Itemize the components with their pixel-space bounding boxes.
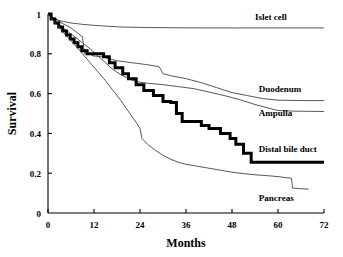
- x-tick-label: 72: [320, 220, 330, 230]
- y-tick-label: 0: [37, 209, 42, 219]
- y-tick-label: 1: [37, 10, 42, 20]
- series-label-ampulla: Ampulla: [259, 108, 293, 118]
- x-tick-label: 60: [274, 220, 284, 230]
- y-tick-label: 0.8: [30, 49, 42, 59]
- series-label-distal-bile-duct: Distal bile duct: [259, 144, 317, 154]
- x-axis-title: Months: [166, 236, 206, 250]
- survival-chart: 012243648607200.20.40.60.81 Islet cellDu…: [0, 0, 343, 257]
- series-curve-ampulla: [48, 14, 324, 112]
- y-axis-title: Survival: [5, 91, 19, 135]
- series-label-islet-cell: Islet cell: [255, 12, 287, 22]
- x-tick-label: 24: [136, 220, 146, 230]
- series-curves: [48, 14, 324, 189]
- series-labels: Islet cellDuodenumAmpullaDistal bile duc…: [255, 12, 317, 203]
- series-label-pancreas: Pancreas: [259, 193, 294, 203]
- x-tick-label: 0: [46, 220, 51, 230]
- chart-canvas: 012243648607200.20.40.60.81 Islet cellDu…: [0, 0, 343, 257]
- x-tick-label: 48: [228, 220, 238, 230]
- y-tick-label: 0.2: [30, 169, 42, 179]
- axis-ticks: [48, 54, 324, 213]
- x-tick-label: 36: [182, 220, 192, 230]
- y-tick-label: 0.4: [30, 129, 42, 139]
- series-label-duodenum: Duodenum: [259, 84, 302, 94]
- y-tick-label: 0.6: [30, 89, 42, 99]
- x-tick-label: 12: [90, 220, 100, 230]
